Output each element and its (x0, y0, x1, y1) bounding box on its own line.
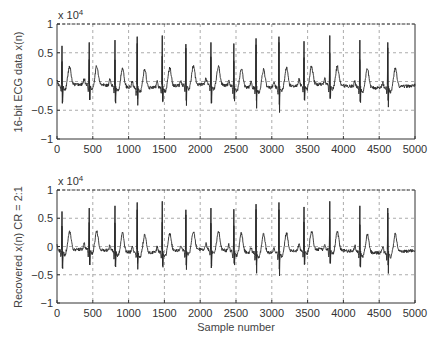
top-y-axis-label: 16-bit ECG data x(n) (12, 32, 24, 133)
x-tick-label: 500 (84, 307, 102, 319)
r-peak-spike (62, 46, 63, 104)
x-tick-label: 2500 (224, 307, 248, 319)
y-tick-label: −0.5 (31, 269, 53, 281)
grid (57, 190, 415, 303)
x-tick-label: 2500 (224, 143, 248, 155)
r-peak-spike (256, 38, 257, 100)
r-peak-spike (115, 206, 116, 266)
r-peak-spike (89, 208, 90, 264)
r-peak-spike (115, 40, 116, 102)
y-tick-label: 0.5 (38, 47, 53, 59)
y-tick-label: −0.5 (31, 104, 53, 116)
r-peak-spike (89, 42, 90, 100)
x-tick-label: 1000 (116, 143, 140, 155)
x-axis-label: Sample number (197, 321, 275, 333)
y-tick-label: −1 (40, 133, 53, 145)
r-peak-spike (211, 208, 212, 268)
r-peak-spike (304, 41, 305, 100)
r-peak-spike (62, 211, 63, 268)
y-tick-label: 1 (47, 184, 53, 196)
bottom-multiplier: x 104 (58, 174, 84, 187)
x-tick-label: 3500 (295, 143, 319, 155)
r-peak-spike (162, 201, 163, 265)
x-tick-label: 2000 (188, 307, 212, 319)
y-tick-label: 0.5 (38, 212, 53, 224)
x-tick-label: 4500 (367, 143, 391, 155)
bottom-plot-ecg-recovered: 0500100015002000250030003500400045005000… (31, 184, 427, 319)
x-tick-label: 2000 (188, 143, 212, 155)
x-tick-label: 5000 (403, 307, 427, 319)
bottom-y-axis-label: Recovered x(n) CR = 2:1 (12, 186, 24, 308)
r-peak-spike (185, 210, 186, 265)
y-tick-label: 1 (47, 18, 53, 30)
x-tick-label: 4000 (331, 307, 355, 319)
x-tick-label: 4000 (331, 143, 355, 155)
x-tick-label: 1500 (152, 307, 176, 319)
ecg-signal-line (57, 209, 415, 275)
r-peak-spike (387, 208, 388, 265)
r-peak-spike (304, 207, 305, 265)
r-peak-spike (359, 40, 360, 102)
top-plot-ecg-original: 0500100015002000250030003500400045005000… (31, 18, 427, 155)
x-tick-label: 3500 (295, 307, 319, 319)
r-peak-spike (387, 42, 388, 100)
ecg-figure: 0500100015002000250030003500400045005000… (0, 0, 443, 351)
r-peak-spike (279, 37, 280, 105)
r-peak-spike (162, 36, 163, 102)
top-multiplier: x 104 (58, 8, 84, 21)
y-tick-label: 0 (47, 76, 53, 88)
y-tick-label: −1 (40, 297, 53, 309)
x-tick-label: 1000 (116, 307, 140, 319)
y-tick-label: 0 (47, 241, 53, 253)
r-peak-spike (185, 44, 186, 100)
x-tick-label: 3000 (260, 307, 284, 319)
x-tick-label: 3000 (260, 143, 284, 155)
r-peak-spike (359, 206, 360, 266)
x-tick-label: 5000 (403, 143, 427, 155)
x-tick-label: 0 (54, 307, 60, 319)
r-peak-spike (279, 202, 280, 269)
x-tick-label: 0 (54, 143, 60, 155)
x-tick-label: 4500 (367, 307, 391, 319)
r-peak-spike (211, 42, 212, 103)
r-peak-spike (233, 44, 234, 99)
r-peak-spike (233, 209, 234, 263)
x-tick-label: 1500 (152, 143, 176, 155)
x-tick-label: 500 (84, 143, 102, 155)
